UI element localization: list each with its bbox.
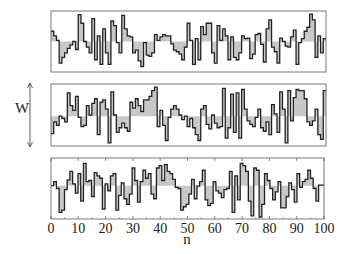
- chart-panel-1: [51, 11, 326, 72]
- x-tick-label: 0: [48, 221, 55, 236]
- x-tick-label: 30: [126, 221, 140, 236]
- x-tick-label: 60: [208, 221, 222, 236]
- w-range-indicator: W: [15, 83, 33, 147]
- x-tick-label: 40: [153, 221, 167, 236]
- x-tick-label: 80: [262, 221, 276, 236]
- panels: [51, 11, 326, 219]
- x-tick-label: 20: [99, 221, 113, 236]
- chart-canvas: 0102030405060708090100 W n: [0, 0, 348, 254]
- x-axis: 0102030405060708090100: [48, 158, 335, 236]
- y-axis-label: W: [15, 100, 30, 116]
- x-tick-label: 100: [314, 221, 335, 236]
- x-tick-label: 10: [71, 221, 85, 236]
- step-series-line: [51, 87, 326, 143]
- x-axis-label: n: [183, 231, 191, 247]
- x-tick-label: 90: [290, 221, 304, 236]
- chart-panel-2: [51, 84, 326, 146]
- chart-panel-3: [51, 158, 324, 219]
- x-tick-label: 70: [235, 221, 249, 236]
